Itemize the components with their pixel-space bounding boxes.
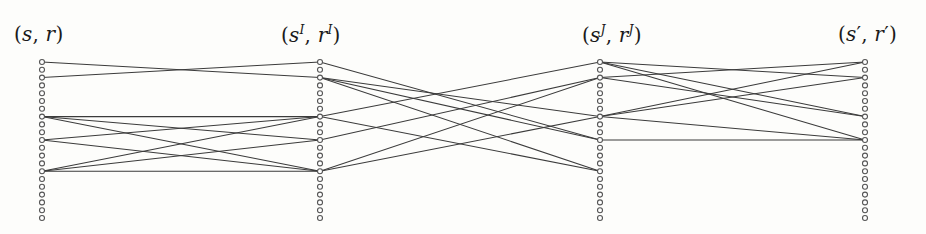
graph-node (40, 200, 45, 205)
graph-node (318, 216, 323, 221)
graph-node (598, 91, 603, 96)
edges-layer (42, 62, 865, 171)
graph-node (863, 169, 868, 174)
graph-node (318, 91, 323, 96)
graph-node (40, 192, 45, 197)
graph-node (598, 138, 603, 143)
graph-node (40, 216, 45, 221)
figure-canvas: (s, r)(sI, rI)(sJ, rJ)(s′, r′) (0, 0, 926, 234)
graph-node (598, 122, 603, 127)
graph-node (863, 91, 868, 96)
graph-node (598, 161, 603, 166)
graph-edge (320, 62, 600, 140)
graph-node (318, 138, 323, 143)
graph-node (598, 169, 603, 174)
graph-node (318, 153, 323, 158)
graph-node (598, 200, 603, 205)
graph-node (40, 91, 45, 96)
graph-node (598, 114, 603, 119)
graph-node (318, 75, 323, 80)
graph-edge (320, 78, 600, 117)
graph-node (40, 99, 45, 104)
graph-node (318, 106, 323, 111)
graph-node (863, 177, 868, 182)
graph-node (40, 161, 45, 166)
graph-node (318, 99, 323, 104)
graph-node (863, 184, 868, 189)
graph-node (598, 208, 603, 213)
graph-node (40, 75, 45, 80)
graph-node (40, 122, 45, 127)
graph-node (318, 130, 323, 135)
graph-node (598, 177, 603, 182)
graph-node (318, 177, 323, 182)
graph-node (318, 60, 323, 65)
graph-node (598, 99, 603, 104)
graph-node (598, 106, 603, 111)
graph-node (863, 138, 868, 143)
column-label-2: (sJ, rJ) (582, 22, 642, 47)
graph-node (598, 192, 603, 197)
graph-node (40, 130, 45, 135)
graph-node (863, 75, 868, 80)
graph-node (863, 192, 868, 197)
graph-node (598, 216, 603, 221)
graph-node (318, 184, 323, 189)
graph-node (40, 67, 45, 72)
graph-node (318, 145, 323, 150)
graph-node (318, 67, 323, 72)
graph-node (318, 208, 323, 213)
graph-node (863, 200, 868, 205)
graph-node (40, 83, 45, 88)
graph-node (863, 216, 868, 221)
graph-node (40, 184, 45, 189)
graph-node (318, 122, 323, 127)
graph-node (863, 67, 868, 72)
graph-node (863, 161, 868, 166)
graph-node (863, 122, 868, 127)
graph-node (863, 145, 868, 150)
graph-node (40, 153, 45, 158)
graph-node (863, 153, 868, 158)
graph-node (318, 83, 323, 88)
graph-node (863, 83, 868, 88)
graph-node (40, 145, 45, 150)
graph-node (863, 99, 868, 104)
graph-node (318, 169, 323, 174)
graph-node (598, 130, 603, 135)
graph-node (598, 184, 603, 189)
graph-node (598, 75, 603, 80)
graph-node (318, 161, 323, 166)
graph-node (40, 106, 45, 111)
graph-node (598, 60, 603, 65)
graph-node (40, 138, 45, 143)
graph-node (863, 208, 868, 213)
graph-node (40, 177, 45, 182)
graph-node (40, 169, 45, 174)
graph-node (318, 114, 323, 119)
column-label-0: (s, r) (14, 22, 63, 46)
column-label-3: (s′, r′) (838, 22, 897, 46)
graph-svg (0, 0, 926, 234)
graph-node (40, 60, 45, 65)
graph-node (863, 106, 868, 111)
graph-node (863, 114, 868, 119)
graph-node (40, 114, 45, 119)
column-label-1: (sI, rI) (281, 22, 341, 47)
graph-node (863, 60, 868, 65)
graph-node (863, 130, 868, 135)
graph-node (318, 192, 323, 197)
graph-node (598, 83, 603, 88)
graph-node (598, 67, 603, 72)
graph-node (318, 200, 323, 205)
graph-node (598, 153, 603, 158)
graph-node (40, 208, 45, 213)
graph-node (598, 145, 603, 150)
